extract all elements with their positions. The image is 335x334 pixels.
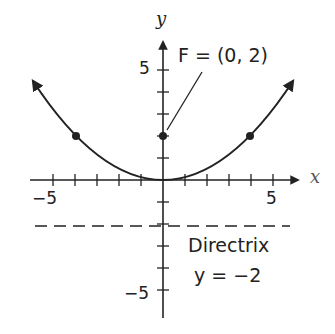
directrix-equation: y = −2 — [194, 266, 261, 285]
focus-point — [159, 132, 167, 140]
plot-svg — [0, 0, 335, 334]
x-axis-label: x — [310, 168, 320, 186]
y-tick-label-5: 5 — [139, 60, 150, 77]
x-tick-label-neg5: −5 — [32, 190, 57, 207]
y-tick-label-neg5: −5 — [124, 285, 149, 302]
directrix-title: Directrix — [188, 236, 269, 255]
point-left — [72, 132, 80, 140]
focus-leader — [167, 72, 202, 130]
x-tick-label-5: 5 — [266, 190, 277, 207]
point-right — [246, 132, 254, 140]
y-axis-label: y — [156, 10, 166, 28]
focus-label: F = (0, 2) — [178, 46, 268, 65]
parabola-diagram: y x −5 5 5 −5 F = (0, 2) Directrix y = −… — [0, 0, 335, 334]
